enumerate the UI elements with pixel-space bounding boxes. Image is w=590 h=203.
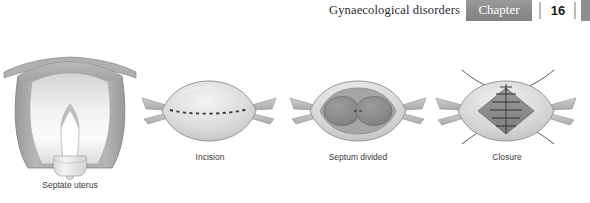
chapter-label: Chapter <box>466 2 532 18</box>
right-fallopian-tube <box>402 98 426 110</box>
septate-uterus-illustration <box>2 24 138 180</box>
panel-incision <box>140 74 278 148</box>
chapter-number: 16 <box>545 3 571 18</box>
septum-divided-illustration <box>288 74 428 148</box>
chapter-banner: Chapter <box>466 0 532 21</box>
endometrial-cavity <box>30 73 110 164</box>
figure-page: Gynaecological disorders Chapter 16 <box>0 0 590 203</box>
panel-closure <box>430 66 582 150</box>
left-fallopian-tube <box>290 98 314 110</box>
right-fallopian-tube <box>550 98 576 110</box>
header-title: Gynaecological disorders <box>329 3 460 18</box>
left-fallopian-tube <box>142 98 166 110</box>
left-fallopian-tube <box>436 98 462 110</box>
panel-septum-divided <box>288 74 428 148</box>
caption-incision: Incision <box>142 152 278 162</box>
incision-illustration <box>140 74 278 148</box>
header-endcap <box>581 0 590 21</box>
right-fallopian-tube <box>252 98 276 110</box>
figure-illustrations: Septate uterus <box>0 22 590 203</box>
header-divider-right <box>574 2 576 19</box>
caption-closure: Closure <box>434 152 580 162</box>
caption-septate-uterus: Septate uterus <box>2 180 138 190</box>
closure-illustration <box>430 66 582 150</box>
panel-septate-uterus <box>2 24 138 180</box>
cervix <box>53 156 87 176</box>
caption-septum-divided: Septum divided <box>288 152 428 162</box>
header-divider-left <box>539 2 541 19</box>
running-header: Gynaecological disorders Chapter 16 <box>0 0 590 22</box>
uterine-fundus <box>162 81 256 141</box>
